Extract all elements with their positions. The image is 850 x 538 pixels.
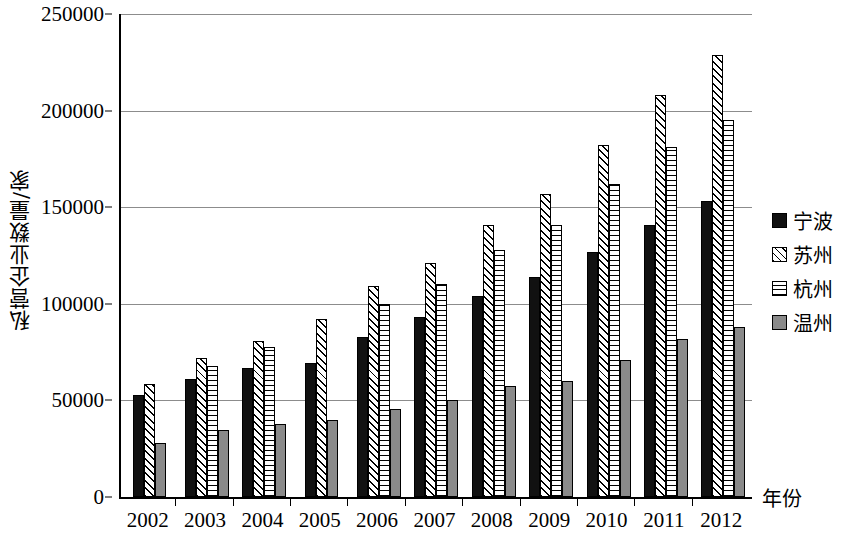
x-tick-mark	[693, 497, 750, 507]
bar	[447, 400, 458, 497]
legend-item: 苏州	[772, 237, 848, 271]
x-tick-mark	[176, 497, 233, 507]
y-tick-label: 200000	[41, 100, 104, 121]
y-axis-tick-labels: 050000100000150000200000250000	[40, 0, 112, 538]
bar	[598, 145, 609, 497]
bar	[551, 225, 562, 497]
x-tick-label: 2007	[406, 508, 463, 538]
bar	[414, 317, 425, 497]
x-tick-mark	[348, 497, 405, 507]
bar	[316, 319, 327, 497]
y-tick-label: 250000	[41, 4, 104, 25]
y-axis-title-text: 私营企业数量/家	[6, 169, 36, 331]
bar	[275, 424, 286, 497]
y-tick-label: 50000	[52, 390, 105, 411]
bar	[357, 337, 368, 497]
bar	[540, 194, 551, 497]
y-tick-label: 0	[94, 487, 105, 508]
legend-item: 杭州	[772, 271, 848, 305]
bar-group	[178, 14, 235, 497]
y-tick-mark	[105, 400, 112, 401]
bar-group	[465, 14, 522, 497]
bar	[620, 360, 631, 497]
x-axis-tick-marks	[119, 497, 750, 507]
x-tick-mark	[463, 497, 520, 507]
y-tick-label: 100000	[41, 293, 104, 314]
bar-group	[408, 14, 465, 497]
bar-group	[121, 14, 178, 497]
bar-group	[236, 14, 293, 497]
legend-label: 苏州	[793, 240, 833, 269]
bar	[196, 358, 207, 497]
bar-group	[580, 14, 637, 497]
bar-chart: 私营企业数量/家 050000100000150000200000250000 …	[0, 0, 850, 538]
bar	[133, 395, 144, 497]
x-tick-mark	[635, 497, 692, 507]
bar	[155, 443, 166, 497]
bar	[390, 409, 401, 497]
y-axis-title: 私营企业数量/家	[2, 0, 40, 500]
x-tick-label: 2010	[578, 508, 635, 538]
x-tick-mark	[234, 497, 291, 507]
x-axis-tick-labels: 2002200320042005200620072008200920102011…	[119, 508, 750, 538]
bar	[609, 184, 620, 497]
bar-group	[695, 14, 752, 497]
bar	[701, 201, 712, 497]
y-tick-label: 150000	[41, 197, 104, 218]
diagonal-hatch-swatch	[772, 247, 787, 262]
y-tick-mark	[105, 207, 112, 208]
bar	[218, 430, 229, 497]
bar-group	[523, 14, 580, 497]
x-tick-label: 2003	[176, 508, 233, 538]
x-tick-label: 2009	[521, 508, 578, 538]
x-tick-label: 2011	[635, 508, 692, 538]
solid-black-swatch	[772, 213, 787, 228]
bar	[505, 386, 516, 497]
x-tick-mark	[119, 497, 176, 507]
x-tick-label: 2004	[234, 508, 291, 538]
bar	[587, 252, 598, 497]
bar	[264, 347, 275, 497]
y-tick-mark	[105, 497, 112, 498]
bar	[472, 296, 483, 497]
legend: 宁波苏州杭州温州	[772, 203, 848, 339]
bar	[644, 225, 655, 497]
x-tick-mark	[521, 497, 578, 507]
x-tick-label: 2005	[291, 508, 348, 538]
bar	[562, 381, 573, 497]
bar-group	[350, 14, 407, 497]
x-tick-label: 2008	[463, 508, 520, 538]
bar	[494, 250, 505, 497]
bar	[666, 147, 677, 497]
bar-groups	[121, 14, 752, 497]
x-tick-mark	[578, 497, 635, 507]
legend-label: 宁波	[793, 206, 833, 235]
bar	[425, 263, 436, 497]
bar	[379, 304, 390, 497]
bar	[529, 277, 540, 497]
y-tick-mark	[105, 14, 112, 15]
bar	[305, 363, 316, 497]
bar	[368, 286, 379, 497]
bar	[712, 55, 723, 497]
y-tick-mark	[105, 110, 112, 111]
plot-area	[119, 14, 752, 499]
x-tick-label: 2012	[693, 508, 750, 538]
legend-label: 杭州	[793, 274, 833, 303]
x-tick-label: 2006	[348, 508, 405, 538]
bar-group	[637, 14, 694, 497]
x-tick-mark	[291, 497, 348, 507]
x-tick-mark	[406, 497, 463, 507]
y-tick-mark	[105, 303, 112, 304]
x-axis-title: 年份	[762, 483, 802, 512]
bar	[655, 95, 666, 497]
bar	[185, 379, 196, 497]
bar	[144, 384, 155, 497]
bar	[677, 339, 688, 497]
bar	[436, 284, 447, 497]
bar	[723, 120, 734, 497]
bar	[483, 225, 494, 497]
x-tick-label: 2002	[119, 508, 176, 538]
bar	[734, 327, 745, 497]
legend-item: 宁波	[772, 203, 848, 237]
